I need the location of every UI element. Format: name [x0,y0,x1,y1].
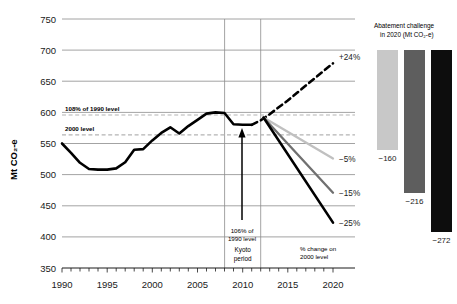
annotation-106pct-line2: 1990 level [228,235,256,242]
x-tick-2020: 2020 [322,279,343,290]
y-tick-700: 700 [40,45,56,56]
chart-svg: 750 700 650 600 550 500 450 400 350 1990… [0,0,457,304]
kyoto-label-line2: period [234,255,252,263]
y-tick-400: 400 [40,231,56,242]
end-label-minus5: −5% [339,155,356,164]
annotation-106pct-line1: 106% of [231,227,254,234]
x-tick-2010: 2010 [232,279,253,290]
end-label-minus15: −15% [339,189,360,198]
footnote-line2: 2000 level [300,253,328,260]
end-label-minus25: −25% [339,219,360,228]
y-tick-500: 500 [40,169,56,180]
inset-bar-minus25 [431,50,452,232]
inset-bar-minus15 [404,50,425,193]
y-tick-350: 350 [40,263,56,274]
inset-title-line1: Abatement challenge [374,22,434,30]
inset-title-line2: in 2020 (Mt CO₂-e) [380,31,434,39]
y-tick-650: 650 [40,76,56,87]
footnote-line1: % change on [300,245,337,252]
inset-bar-minus5 [377,50,398,150]
end-label-plus24: +24% [339,53,360,62]
inset-bar-value-1: −160 [378,154,397,163]
kyoto-label-line1: Kyoto [235,246,252,254]
x-tick-1990: 1990 [51,279,72,290]
x-tick-1995: 1995 [97,279,118,290]
inset-bar-value-2: −216 [405,197,424,206]
y-tick-600: 600 [40,107,56,118]
y-axis-title: Mt CO₂-e [8,139,19,180]
emissions-projection-chart: 750 700 650 600 550 500 450 400 350 1990… [0,0,457,304]
x-tick-2015: 2015 [277,279,298,290]
ref-label-2000: 2000 level [65,125,95,132]
y-tick-550: 550 [40,138,56,149]
inset-bar-value-3: −272 [432,236,451,245]
ref-label-108pct: 108% of 1990 level [65,105,120,112]
y-tick-750: 750 [40,14,56,25]
y-tick-450: 450 [40,200,56,211]
x-tick-2005: 2005 [187,279,208,290]
y-axis-tick-labels: 750 700 650 600 550 500 450 400 350 [40,14,56,274]
x-tick-2000: 2000 [142,279,163,290]
